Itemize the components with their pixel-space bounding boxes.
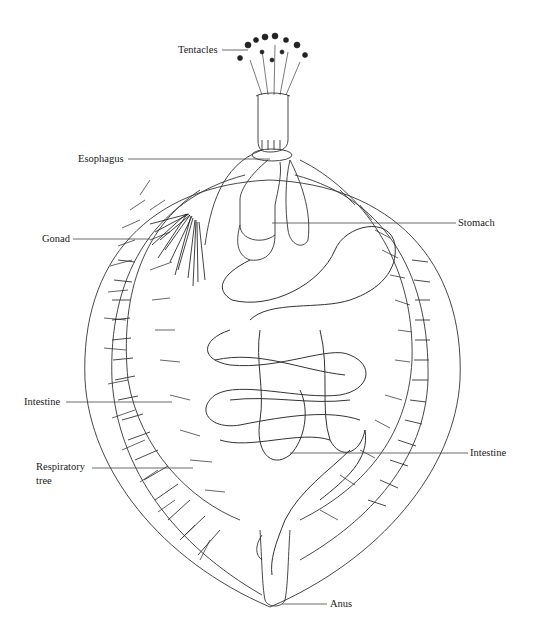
label-respiratory-tree-line1: Respiratory — [36, 461, 85, 473]
oral-tube — [258, 95, 288, 152]
label-respiratory-tree-line2: tree — [36, 475, 52, 487]
esophagus — [240, 160, 281, 240]
left-vessel-inner — [126, 190, 240, 520]
label-intestine-left: Intestine — [24, 396, 60, 408]
cloaca — [260, 530, 290, 606]
label-stomach: Stomach — [458, 217, 495, 229]
body-wall-outline — [85, 180, 460, 607]
stomach — [238, 225, 275, 260]
label-tentacles: Tentacles — [178, 44, 218, 56]
label-gonad: Gonad — [42, 233, 70, 245]
label-esophagus: Esophagus — [78, 153, 124, 165]
tentacle-tufts — [238, 33, 308, 95]
intestine-coils — [206, 226, 395, 575]
right-ladder — [368, 260, 430, 506]
left-ladder — [112, 260, 220, 555]
leader-lines — [66, 50, 468, 604]
anatomy-diagram: Tentacles Esophagus Stomach Gonad Intest… — [0, 0, 543, 631]
label-anus: Anus — [330, 598, 352, 610]
label-intestine-right: Intestine — [470, 447, 506, 459]
gonad — [150, 214, 205, 286]
anatomy-drawing — [0, 0, 543, 631]
